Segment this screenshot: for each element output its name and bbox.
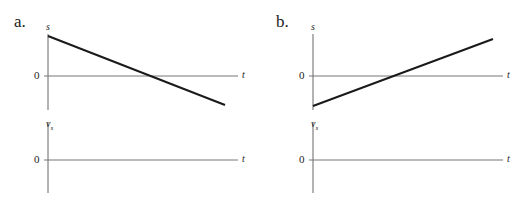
v-subscript: s (50, 124, 53, 132)
panel-b-v-zero-label: 0 (299, 153, 305, 165)
panel-a-v-label: vs (46, 118, 53, 132)
panel-a-t-label: t (242, 69, 245, 80)
panel-b-t-label: t (507, 69, 510, 80)
v-subscript: s (315, 124, 318, 132)
panel-a-v-zero-label: 0 (34, 153, 40, 165)
graphs-canvas (0, 0, 520, 206)
panel-a-s-label: s (46, 21, 50, 32)
panel-a-zero-label: 0 (34, 69, 40, 81)
panel-a-position-line (48, 36, 225, 105)
panel-a-label: a. (14, 12, 26, 32)
panel-b-s-label: s (311, 21, 315, 32)
panel-b-vt-label: t (507, 153, 510, 164)
panel-b-v-label: vs (311, 118, 318, 132)
panel-b-position-line (313, 39, 493, 106)
panel-a-vt-label: t (242, 153, 245, 164)
panel-b-zero-label: 0 (299, 69, 305, 81)
panel-b-label: b. (276, 12, 289, 32)
